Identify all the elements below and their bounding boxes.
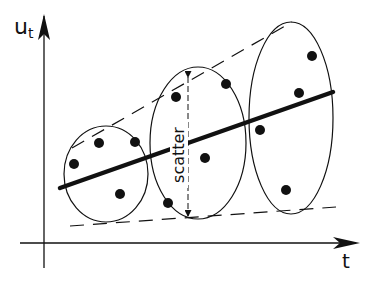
data-point [307, 51, 317, 61]
data-point [294, 88, 304, 98]
group-ellipse-2 [150, 67, 246, 219]
data-point [255, 125, 265, 135]
data-point [130, 137, 140, 147]
x-axis-label: t [342, 249, 350, 273]
heteroscedasticity-diagram: ut t scatter [0, 0, 375, 285]
data-point [163, 198, 173, 208]
data-point [69, 159, 79, 169]
y-axis-label: ut [14, 14, 34, 41]
data-point [171, 92, 181, 102]
lower-envelope-line [70, 207, 336, 226]
data-point [115, 189, 125, 199]
scatter-label: scatter [169, 127, 188, 183]
data-point [94, 138, 104, 148]
data-point [281, 185, 291, 195]
data-point [221, 79, 231, 89]
data-point [200, 153, 210, 163]
scatter-groups [64, 22, 333, 222]
